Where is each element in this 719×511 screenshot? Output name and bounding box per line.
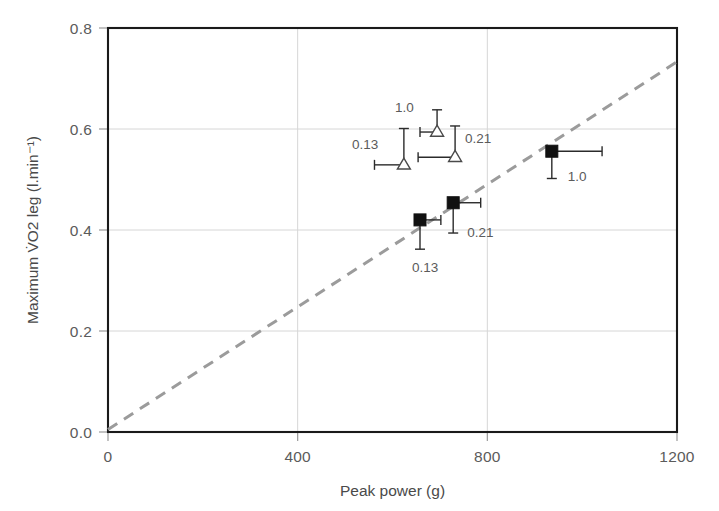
scatter-plot: 0.131.00.210.130.211.0 0.00.20.40.60.8 0… xyxy=(0,0,719,511)
y-tick-label: 0.0 xyxy=(70,424,92,441)
series-open-triangle: 0.131.00.21 xyxy=(352,100,491,170)
x-tick-label: 400 xyxy=(284,448,311,465)
data-point-label: 1.0 xyxy=(568,169,587,184)
data-point-label: 1.0 xyxy=(395,100,414,115)
data-point[interactable]: 0.13 xyxy=(412,214,441,275)
x-error-bar xyxy=(552,146,602,156)
marker-filled-square xyxy=(447,197,459,209)
x-tick-label: 0 xyxy=(104,448,113,465)
y-tick-marks xyxy=(99,28,108,432)
y-axis-tick-labels: 0.00.20.40.60.8 xyxy=(70,20,92,441)
marker-open-triangle xyxy=(449,150,462,161)
y-tick-label: 0.4 xyxy=(70,222,92,239)
x-axis-title: Peak power (g) xyxy=(340,482,445,499)
gridlines xyxy=(108,28,677,432)
series-filled-square: 0.130.211.0 xyxy=(412,145,602,275)
data-point-label: 0.13 xyxy=(412,260,438,275)
data-series-layer: 0.131.00.210.130.211.0 xyxy=(352,100,602,275)
data-point-label: 0.21 xyxy=(465,131,491,146)
data-point[interactable]: 0.13 xyxy=(352,128,411,169)
chart-container: 0.131.00.210.130.211.0 0.00.20.40.60.8 0… xyxy=(0,0,719,511)
marker-filled-square xyxy=(546,145,558,157)
marker-open-triangle xyxy=(397,158,410,169)
regression-line xyxy=(108,62,677,430)
data-point-label: 0.21 xyxy=(467,225,493,240)
data-point[interactable]: 1.0 xyxy=(546,145,602,184)
marker-filled-square xyxy=(414,214,426,226)
y-axis-title: Maximum V̇O2 leg (l.min⁻¹) xyxy=(24,136,41,324)
data-point[interactable]: 0.21 xyxy=(447,197,493,240)
x-axis-tick-labels: 04008001200 xyxy=(104,448,695,465)
y-tick-label: 0.6 xyxy=(70,121,92,138)
x-tick-label: 800 xyxy=(474,448,501,465)
data-point-label: 0.13 xyxy=(352,137,378,152)
y-tick-label: 0.8 xyxy=(70,20,92,37)
x-tick-marks xyxy=(108,432,677,441)
marker-open-triangle xyxy=(431,125,444,136)
x-tick-label: 1200 xyxy=(659,448,694,465)
data-point[interactable]: 1.0 xyxy=(395,100,444,137)
y-tick-label: 0.2 xyxy=(70,323,92,340)
